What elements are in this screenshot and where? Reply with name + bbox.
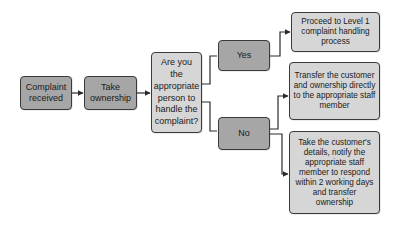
- node-no: No: [218, 117, 270, 150]
- node-take-details: Take the customer's details, notify the …: [289, 131, 380, 214]
- node-label: Yes: [237, 50, 252, 61]
- node-label: Complaint received: [24, 82, 68, 104]
- node-label: Are you the appropriate person to handle…: [154, 57, 200, 127]
- node-label: Proceed to Level 1 complaint handling pr…: [295, 17, 376, 47]
- node-label: Take the customer's details, notify the …: [293, 138, 376, 208]
- edge-yes-to-proceed: [270, 32, 290, 56]
- node-transfer-directly: Transfer the customer and ownership dire…: [289, 62, 380, 120]
- node-decision-question: Are you the appropriate person to handle…: [151, 52, 202, 133]
- node-proceed-level1: Proceed to Level 1 complaint handling pr…: [291, 12, 380, 52]
- edge-question-to-no: [202, 102, 217, 131]
- node-label: Transfer the customer and ownership dire…: [293, 71, 376, 111]
- node-yes: Yes: [218, 40, 270, 71]
- edge-no-to-transfer: [270, 96, 288, 129]
- edge-no-to-details: [270, 134, 288, 174]
- node-take-ownership: Take ownership: [84, 76, 137, 110]
- node-label: No: [238, 128, 250, 139]
- edge-question-to-yes: [202, 56, 217, 84]
- node-label: Take ownership: [88, 82, 133, 104]
- node-complaint-received: Complaint received: [20, 76, 72, 110]
